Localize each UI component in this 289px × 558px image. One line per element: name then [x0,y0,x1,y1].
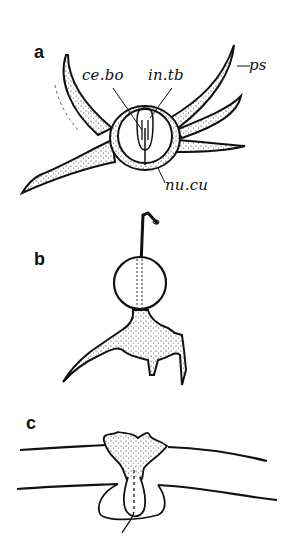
label-ce-bo: ce.bo [82,66,124,84]
diagram-drawing [0,0,289,558]
panel-letter-c: c [26,413,36,434]
panel-letter-a: a [34,42,44,63]
label-in-tb: in.tb [148,66,184,84]
figure: a b c ce.bo in.tb ps nu.cu [0,0,289,558]
panel-c-drawing [17,432,277,533]
label-nu-cu: nu.cu [165,176,208,194]
panel-letter-b: b [34,249,45,270]
panel-a-drawing [22,45,250,193]
label-ps: ps [249,56,267,74]
panel-b-drawing [63,213,186,385]
